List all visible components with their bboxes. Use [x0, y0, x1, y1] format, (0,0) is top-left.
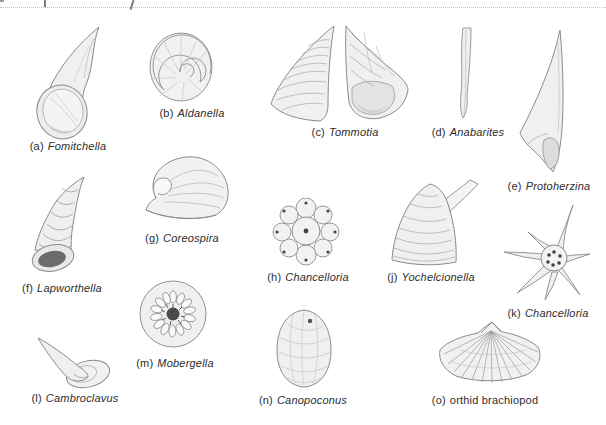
figure-letter: (l): [31, 392, 41, 404]
figure-letter: (k): [508, 307, 521, 319]
figure-label-l: (l)Cambroclavus: [31, 392, 118, 404]
figure-label-n: (n)Canopoconus: [259, 394, 347, 406]
orthid-brachiopod-illustration: [434, 320, 546, 388]
figure-label-b: (b)Aldanella: [159, 107, 224, 119]
figure-letter: (j): [387, 271, 397, 283]
lapworthella-illustration: [24, 174, 96, 274]
figure-label-d: (d)Anabarites: [432, 126, 505, 138]
taxon-name: Anabarites: [450, 126, 505, 138]
figure-label-m: (m)Mobergella: [136, 357, 214, 369]
yochelcionella-illustration: [386, 178, 482, 266]
figure-letter: (n): [259, 394, 273, 406]
figure-b-aldanella: (b)Aldanella: [148, 30, 214, 106]
figure-label-a: (a)Fomitchella: [30, 140, 107, 152]
figure-letter: (a): [30, 140, 44, 152]
figure-c-tommotia: (c)Tommotia: [268, 24, 410, 122]
figure-letter: (h): [267, 271, 281, 283]
fomitchella-illustration: [36, 24, 104, 146]
taxon-name: Protoherzina: [526, 180, 591, 192]
figure-label-f: (f)Lapworthella: [22, 282, 102, 294]
figure-h-chancelloria-rosette: (h)Chancelloria: [270, 198, 342, 268]
figure-letter: (d): [432, 126, 446, 138]
cambroclavus-illustration: [28, 336, 112, 392]
figure-j-yochelcionella: (j)Yochelcionella: [386, 178, 482, 266]
taxon-name: Coreospira: [163, 232, 219, 244]
figure-n-canopoconus: (n)Canopoconus: [273, 306, 335, 390]
fossil-plate: (a)Fomitchella (b)Aldanella (c)Tommotia …: [0, 0, 606, 425]
figure-k-chancelloria-star: (k)Chancelloria: [502, 196, 602, 308]
figure-letter: (o): [432, 394, 446, 406]
figure-label-h: (h)Chancelloria: [267, 271, 349, 283]
taxon-name: Chancelloria: [525, 307, 589, 319]
figure-letter: (c): [312, 126, 325, 138]
taxon-name: Fomitchella: [48, 140, 106, 152]
canopoconus-illustration: [273, 306, 335, 390]
figure-m-mobergella: (m)Mobergella: [138, 278, 208, 350]
figure-letter: (m): [136, 357, 153, 369]
cropped-text-fragment: [44, 0, 46, 7]
taxon-name: Mobergella: [157, 357, 213, 369]
figure-label-j: (j)Yochelcionella: [387, 271, 475, 283]
cropped-text-fragment: [0, 0, 4, 2]
taxon-name: Cambroclavus: [46, 392, 119, 404]
figure-letter: (e): [508, 180, 522, 192]
figure-e-protoherzina: (e)Protoherzina: [518, 28, 582, 176]
figure-d-anabarites: (d)Anabarites: [456, 26, 476, 120]
figure-a-fomitchella: (a)Fomitchella: [36, 24, 104, 146]
figure-f-lapworthella: (f)Lapworthella: [24, 174, 96, 274]
figure-label-k: (k)Chancelloria: [508, 307, 589, 319]
figure-letter: (g): [145, 232, 159, 244]
dotted-rule: [0, 7, 606, 8]
taxon-name: orthid brachiopod: [450, 394, 538, 406]
figure-label-g: (g)Coreospira: [145, 232, 219, 244]
figure-letter: (b): [159, 107, 173, 119]
chancelloria-star-illustration: [502, 196, 602, 308]
figure-o-orthid-brachiopod: (o)orthid brachiopod: [434, 320, 546, 388]
protoherzina-illustration: [518, 28, 582, 176]
coreospira-illustration: [128, 152, 232, 226]
figure-letter: (f): [22, 282, 33, 294]
aldanella-illustration: [148, 30, 214, 106]
taxon-name: Yochelcionella: [402, 271, 475, 283]
figure-label-c: (c)Tommotia: [312, 126, 379, 138]
taxon-name: Chancelloria: [285, 271, 349, 283]
cropped-text-fragment: [130, 0, 135, 10]
figure-label-o: (o)orthid brachiopod: [432, 394, 538, 406]
taxon-name: Aldanella: [177, 107, 224, 119]
anabarites-illustration: [456, 26, 476, 120]
taxon-name: Canopoconus: [277, 394, 347, 406]
mobergella-illustration: [138, 278, 208, 350]
figure-l-cambroclavus: (l)Cambroclavus: [28, 336, 112, 392]
tommotia-illustration: [268, 24, 410, 122]
taxon-name: Lapworthella: [37, 282, 102, 294]
figure-label-e: (e)Protoherzina: [508, 180, 591, 192]
chancelloria-rosette-illustration: [270, 198, 342, 268]
taxon-name: Tommotia: [329, 126, 379, 138]
figure-g-coreospira: (g)Coreospira: [128, 152, 232, 226]
